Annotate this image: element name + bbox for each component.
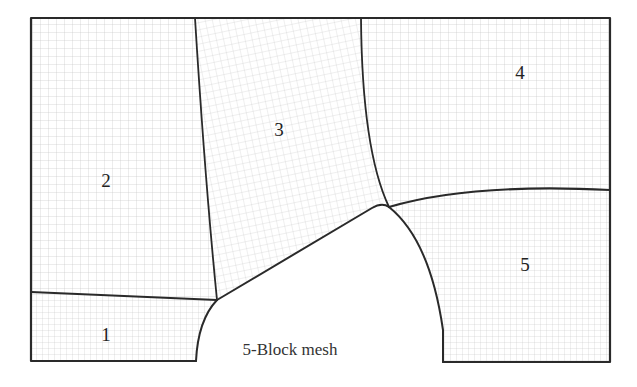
block-2-region [31,18,217,300]
block-4-region [361,18,610,207]
block-label-5: 5 [520,254,530,276]
block-label-3: 3 [274,119,284,141]
block-1-region [31,292,217,361]
figure-caption: 5-Block mesh [243,340,338,360]
mesh-diagram [0,0,637,387]
block-label-4: 4 [515,62,525,84]
block-label-2: 2 [101,170,111,192]
block-3-region [195,18,389,300]
block-5-region [389,188,610,362]
block-label-1: 1 [101,324,111,346]
